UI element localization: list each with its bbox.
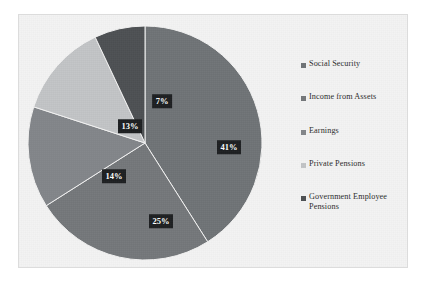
pie-slice-label-social-security: 41% [217, 140, 241, 154]
legend-item-label: Earnings [309, 126, 339, 136]
legend-swatch-icon [301, 196, 306, 201]
legend-item-government-employee-pensions: Government Employee Pensions [301, 192, 405, 213]
legend-swatch-icon [301, 130, 306, 135]
chart-screenshot: 41% 25% 14% 13% 7% Social Security Incom… [0, 0, 435, 289]
pie-slice-label-private-pensions: 13% [118, 119, 142, 133]
chart-legend: Social Security Income from Assets Earni… [301, 59, 405, 213]
legend-item-earnings: Earnings [301, 126, 405, 136]
legend-item-social-security: Social Security [301, 59, 405, 69]
legend-item-label: Private Pensions [309, 159, 365, 169]
legend-swatch-icon [301, 96, 306, 101]
pie-slice-label-earnings: 14% [102, 169, 126, 183]
chart-frame: 41% 25% 14% 13% 7% Social Security Incom… [18, 14, 408, 268]
legend-item-label: Social Security [309, 59, 360, 69]
pie-slice-label-government-employee-pensions: 7% [152, 94, 172, 108]
legend-item-private-pensions: Private Pensions [301, 159, 405, 169]
pie-slice-label-income-from-assets: 25% [149, 214, 173, 228]
legend-swatch-icon [301, 63, 306, 68]
legend-swatch-icon [301, 163, 306, 168]
legend-item-label: Government Employee Pensions [309, 192, 405, 213]
pie-plot-area: 41% 25% 14% 13% 7% [25, 19, 275, 265]
legend-item-label: Income from Assets [309, 92, 376, 102]
legend-item-income-from-assets: Income from Assets [301, 92, 405, 102]
